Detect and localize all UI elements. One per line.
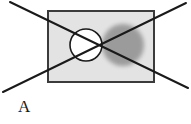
figure-label: A xyxy=(18,97,30,117)
gray-blob-shape xyxy=(102,24,144,66)
figure-container: A xyxy=(0,0,191,124)
